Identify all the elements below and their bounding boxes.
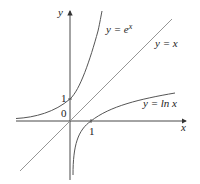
x-tick-label: 1 — [89, 125, 95, 137]
x-axis-label: x — [180, 121, 186, 133]
identity-line — [20, 19, 172, 171]
y-axis-label: y — [57, 6, 63, 18]
log-label: y = ln x — [142, 97, 177, 109]
exp-label: y = ex — [105, 22, 133, 35]
y-tick-label: 1 — [61, 92, 67, 104]
origin-label: 0 — [61, 107, 67, 119]
graph-canvas: y x 0 1 1 y = ex y = x y = ln x — [0, 0, 200, 184]
identity-label: y = x — [154, 37, 178, 49]
